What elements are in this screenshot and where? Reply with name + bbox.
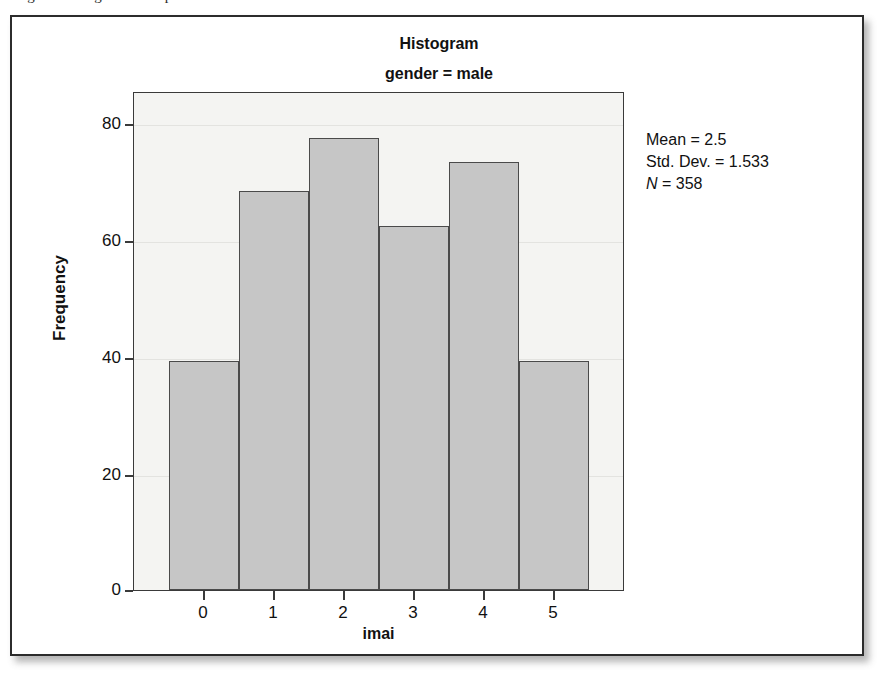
chart-subtitle: gender = male <box>12 65 866 83</box>
y-tick-80 <box>125 124 133 126</box>
stat-mean: Mean = 2.5 <box>646 129 769 151</box>
y-tick-label-80: 80 <box>102 114 121 134</box>
bar-1 <box>239 191 309 590</box>
plot-area <box>133 92 624 591</box>
figure-box: Histogram gender = male 80 60 40 20 0 Fr… <box>10 15 864 656</box>
x-tick-2 <box>343 591 345 600</box>
bar-4 <box>449 162 519 590</box>
y-axis-title: Frequency <box>50 255 70 341</box>
y-tick-label-20: 20 <box>102 465 121 485</box>
y-axis: 80 60 40 20 0 <box>125 92 133 591</box>
x-tick-1 <box>273 591 275 600</box>
statistics-annotation: Mean = 2.5 Std. Dev. = 1.533 N = 358 <box>646 129 769 195</box>
x-tick-label-0: 0 <box>198 603 207 623</box>
x-tick-label-1: 1 <box>268 603 277 623</box>
y-tick-0 <box>125 590 133 592</box>
y-tick-label-40: 40 <box>102 348 121 368</box>
stat-n-value: = 358 <box>658 175 703 192</box>
cropped-caption-line: Figure Histogram example <box>0 0 882 14</box>
bar-2 <box>309 138 379 590</box>
x-tick-label-2: 2 <box>338 603 347 623</box>
y-tick-label-60: 60 <box>102 231 121 251</box>
stat-n-symbol: N <box>646 175 658 192</box>
cropped-caption-text: Figure Histogram example <box>14 0 184 4</box>
chart-title: Histogram <box>12 35 866 53</box>
stat-n: N = 358 <box>646 173 769 195</box>
stat-std-dev: Std. Dev. = 1.533 <box>646 151 769 173</box>
bar-series <box>134 93 623 590</box>
x-tick-label-5: 5 <box>548 603 557 623</box>
y-tick-60 <box>125 241 133 243</box>
y-tick-40 <box>125 358 133 360</box>
y-tick-20 <box>125 475 133 477</box>
x-tick-4 <box>483 591 485 600</box>
x-axis-title: imai <box>133 625 624 643</box>
x-tick-0 <box>203 591 205 600</box>
bar-0 <box>169 361 239 590</box>
x-tick-3 <box>413 591 415 600</box>
x-tick-label-3: 3 <box>408 603 417 623</box>
bar-3 <box>379 226 449 590</box>
y-tick-label-0: 0 <box>112 580 121 600</box>
x-axis: 0 1 2 3 4 5 <box>133 591 624 601</box>
x-tick-label-4: 4 <box>478 603 487 623</box>
x-tick-5 <box>553 591 555 600</box>
bar-5 <box>519 361 589 590</box>
